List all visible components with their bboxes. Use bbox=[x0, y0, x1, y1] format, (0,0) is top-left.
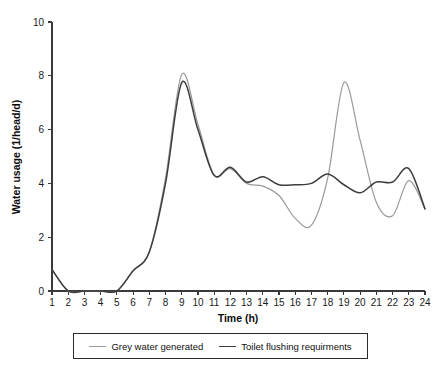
x-tick-label: 9 bbox=[179, 297, 185, 308]
x-tick-label: 7 bbox=[147, 297, 153, 308]
x-tick-label: 21 bbox=[371, 297, 383, 308]
series-group bbox=[52, 73, 425, 292]
x-tick-label: 15 bbox=[273, 297, 285, 308]
x-tick-label: 18 bbox=[322, 297, 334, 308]
x-tick-label: 24 bbox=[419, 297, 431, 308]
y-tick-label: 2 bbox=[38, 232, 44, 243]
y-tick-label: 10 bbox=[33, 17, 45, 28]
x-tick-label: 14 bbox=[257, 297, 269, 308]
x-tick-label: 22 bbox=[387, 297, 399, 308]
axes-group bbox=[52, 22, 425, 291]
legend-entry-grey-water: Grey water generated bbox=[89, 341, 203, 352]
x-axis-title: Time (h) bbox=[218, 312, 259, 324]
x-tick-label: 16 bbox=[290, 297, 302, 308]
legend-label-grey-water: Grey water generated bbox=[111, 341, 203, 352]
y-tick-label: 4 bbox=[38, 178, 44, 189]
series-line-toilet-flushing bbox=[52, 81, 425, 292]
x-tick-label: 23 bbox=[403, 297, 415, 308]
x-tick-label: 19 bbox=[338, 297, 350, 308]
chart-figure: 0246810 12345678910111213141516171819202… bbox=[0, 0, 442, 371]
x-tick-label: 3 bbox=[82, 297, 88, 308]
legend-swatch-grey-water bbox=[89, 346, 106, 347]
y-axis-ticks: 0246810 bbox=[33, 17, 52, 297]
x-tick-label: 13 bbox=[241, 297, 253, 308]
y-tick-label: 0 bbox=[38, 286, 44, 297]
water-usage-line-chart: 0246810 12345678910111213141516171819202… bbox=[0, 0, 442, 371]
x-tick-label: 10 bbox=[192, 297, 204, 308]
x-tick-label: 8 bbox=[163, 297, 169, 308]
y-tick-label: 8 bbox=[38, 70, 44, 81]
x-tick-label: 5 bbox=[114, 297, 120, 308]
legend-label-toilet-flushing: Toilet flushing requirments bbox=[241, 341, 351, 352]
x-tick-label: 4 bbox=[98, 297, 104, 308]
series-line-grey-water bbox=[52, 73, 425, 292]
x-tick-label: 20 bbox=[355, 297, 367, 308]
x-tick-label: 2 bbox=[65, 297, 71, 308]
x-tick-label: 12 bbox=[225, 297, 237, 308]
y-axis-title: Water usage (1/head/d) bbox=[10, 100, 22, 215]
x-tick-label: 17 bbox=[306, 297, 318, 308]
x-tick-label: 6 bbox=[130, 297, 136, 308]
x-tick-label: 11 bbox=[209, 297, 220, 308]
legend-entry-toilet-flushing: Toilet flushing requirments bbox=[219, 341, 351, 352]
y-tick-label: 6 bbox=[38, 124, 44, 135]
x-axis-ticks: 123456789101112131415161718192021222324 bbox=[49, 291, 431, 308]
x-tick-label: 1 bbox=[49, 297, 55, 308]
chart-legend: Grey water generated Toilet flushing req… bbox=[73, 333, 368, 359]
legend-swatch-toilet-flushing bbox=[219, 346, 236, 347]
